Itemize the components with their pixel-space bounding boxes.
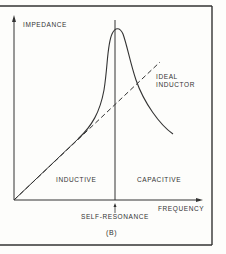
region-inductive-label: INDUCTIVE [56, 176, 96, 183]
y-axis-label: IMPEDANCE [23, 21, 67, 28]
y-axis-arrow-icon [12, 15, 16, 22]
resonance-label: SELF-RESONANCE [81, 213, 149, 220]
figure-label: (B) [106, 229, 117, 237]
x-axis-arrow-icon [196, 198, 203, 202]
impedance-diagram: IMPEDANCE IDEAL INDUCTOR INDUCTIVE CAPAC… [0, 0, 226, 254]
x-axis-label: FREQUENCY [158, 205, 204, 213]
ideal-label-2: INDUCTOR [156, 81, 195, 88]
ideal-label-1: IDEAL [156, 73, 178, 80]
region-capacitive-label: CAPACITIVE [137, 176, 181, 183]
ideal-inductor-line-solid-base [14, 139, 78, 200]
resonance-arrow-icon [114, 203, 117, 207]
